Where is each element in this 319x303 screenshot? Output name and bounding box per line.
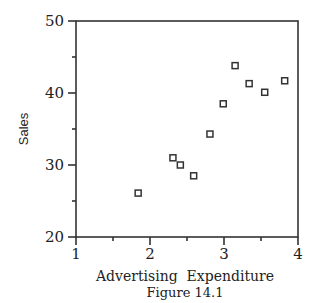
x-tick-label: 3 xyxy=(219,245,229,263)
data-point-square-marker xyxy=(191,173,197,179)
data-point-square-marker xyxy=(170,155,176,161)
y-tick-label: 20 xyxy=(45,228,64,246)
x-axis: 1234 xyxy=(71,237,303,263)
x-tick-label: 1 xyxy=(71,245,81,263)
data-point-square-marker xyxy=(262,89,268,95)
data-point-square-marker xyxy=(177,162,183,168)
y-tick-label: 50 xyxy=(45,12,64,30)
data-point-square-marker xyxy=(220,101,226,107)
plot-frame xyxy=(76,21,298,237)
data-point-square-marker xyxy=(282,78,288,84)
data-point-square-marker xyxy=(207,131,213,137)
x-axis-title: Advertising Expenditure xyxy=(95,268,274,284)
data-points xyxy=(135,63,288,196)
y-axis: 20304050 xyxy=(45,12,76,246)
plot-border xyxy=(76,21,298,237)
y-tick-label: 30 xyxy=(45,156,64,174)
scatter-chart: 20304050 1234 Sales Advertising Expendit… xyxy=(0,0,319,303)
x-tick-label: 4 xyxy=(293,245,303,263)
y-axis-title: Sales xyxy=(16,112,31,145)
data-point-square-marker xyxy=(135,190,141,196)
x-tick-label: 2 xyxy=(145,245,155,263)
figure-caption: Figure 14.1 xyxy=(147,285,224,300)
data-point-square-marker xyxy=(246,81,252,87)
data-point-square-marker xyxy=(232,63,238,69)
y-tick-label: 40 xyxy=(45,84,64,102)
